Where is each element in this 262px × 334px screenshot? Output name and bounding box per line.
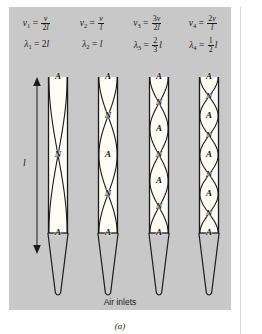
antinode-label: A	[202, 71, 216, 81]
wavelength-formula-2: λ2 = l	[65, 37, 121, 55]
antinode-label: A	[51, 71, 65, 81]
wavelength-formula-3: λ3 = 23l	[120, 37, 176, 55]
wavelength-formula-4: λ4 = 12l	[176, 37, 232, 55]
node-label: N	[152, 201, 166, 211]
figure-sub-caption: (a)	[9, 321, 231, 331]
antinode-label: A	[152, 71, 166, 81]
organ-pipe-2: ANANA	[95, 75, 121, 299]
node-label: N	[101, 188, 115, 198]
frequency-formula-row: ν1 = v2l ν2 = vl ν3 = 3v2l ν4 = 2vl	[9, 15, 231, 33]
organ-pipe-3: ANANANA	[146, 75, 172, 299]
air-inlets-label: Air inlets	[9, 297, 231, 307]
frequency-formula-4: ν4 = 2vl	[176, 15, 232, 33]
node-label: N	[101, 110, 115, 120]
antinode-label: A	[202, 188, 216, 198]
antinode-label: A	[152, 175, 166, 185]
figure-panel: ν1 = v2l ν2 = vl ν3 = 3v2l ν4 = 2vl λ1 =…	[9, 7, 231, 310]
pipe-length-arrow	[30, 77, 44, 254]
node-label: N	[51, 149, 65, 159]
wavelength-formula-row: λ1 = 2l λ2 = l λ3 = 23l λ4 = 12l	[9, 37, 231, 55]
node-label: N	[202, 208, 216, 218]
organ-pipe-4: ANANANANA	[196, 75, 222, 299]
frequency-formula-1: ν1 = v2l	[9, 15, 65, 33]
frequency-formula-3: ν3 = 3v2l	[120, 15, 176, 33]
length-label: l	[23, 157, 26, 168]
antinode-label: A	[101, 71, 115, 81]
antinode-label: A	[202, 149, 216, 159]
antinode-label: A	[51, 227, 65, 237]
antinode-label: A	[101, 149, 115, 159]
page-right-margin	[240, 7, 262, 334]
wavelength-formula-1: λ1 = 2l	[9, 37, 65, 55]
antinode-label: A	[152, 123, 166, 133]
node-label: N	[202, 169, 216, 179]
node-label: N	[202, 91, 216, 101]
antinode-label: A	[202, 110, 216, 120]
organ-pipe-1: ANA	[45, 75, 71, 299]
node-label: N	[152, 97, 166, 107]
antinode-label: A	[202, 227, 216, 237]
frequency-formula-2: ν2 = vl	[65, 15, 121, 33]
node-label: N	[152, 149, 166, 159]
node-label: N	[202, 130, 216, 140]
antinode-label: A	[152, 227, 166, 237]
antinode-label: A	[101, 227, 115, 237]
